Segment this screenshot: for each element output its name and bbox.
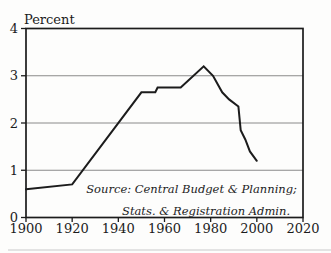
source-note-line1: Source: Central Budget & Planning; xyxy=(86,182,297,196)
x-tick-label-1900: 1900 xyxy=(9,221,42,236)
y-tick-label-1: 1 xyxy=(10,163,18,178)
x-tick-label-1980: 1980 xyxy=(194,221,227,236)
y-tick-label-4: 4 xyxy=(10,21,18,36)
x-tick-label-1940: 1940 xyxy=(102,221,135,236)
y-tick-label-3: 3 xyxy=(10,68,18,83)
y-axis-title: Percent xyxy=(24,12,75,27)
line-chart-figure: 01234 1900192019401960198020002020 Perce… xyxy=(0,0,331,253)
y-tick-label-2: 2 xyxy=(10,116,18,131)
source-note-line2: Stats. & Registration Admin. xyxy=(122,204,290,218)
x-tick-label-2000: 2000 xyxy=(240,221,273,236)
y-axis-tick-labels: 01234 xyxy=(10,21,18,225)
gridlines xyxy=(26,76,303,171)
x-tick-label-2020: 2020 xyxy=(286,221,319,236)
data-line-series xyxy=(26,66,257,189)
x-axis-tick-labels: 1900192019401960198020002020 xyxy=(9,221,319,236)
x-tick-label-1960: 1960 xyxy=(148,221,181,236)
x-tick-label-1920: 1920 xyxy=(56,221,89,236)
series-percent-growth-rate xyxy=(26,66,257,189)
chart-canvas: 01234 1900192019401960198020002020 Perce… xyxy=(0,0,331,253)
